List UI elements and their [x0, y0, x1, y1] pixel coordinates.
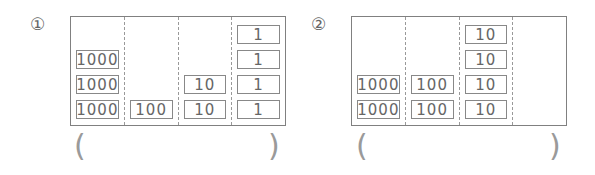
column-hundreds: 100: [124, 17, 178, 125]
number-card: 1: [237, 100, 280, 119]
number-card: 10: [465, 25, 508, 44]
place-value-board: 1000100010010010101010: [351, 16, 567, 126]
number-card: 1000: [76, 100, 119, 119]
number-card: 1: [237, 25, 280, 44]
number-card: 10: [465, 75, 508, 94]
number-card: 100: [411, 100, 454, 119]
column-tens: 1010: [178, 17, 232, 125]
number-card: 10: [465, 50, 508, 69]
number-card: 100: [130, 100, 173, 119]
answer-close-paren: ): [268, 128, 280, 163]
column-thousands: 100010001000: [71, 17, 124, 125]
column-ones: 1111: [231, 17, 285, 125]
answer-blank[interactable]: [100, 135, 260, 165]
number-card: 1000: [357, 75, 400, 94]
place-value-board: 10001000100010010101111: [70, 16, 286, 126]
number-card: 1000: [357, 100, 400, 119]
answer-close-paren: ): [549, 128, 561, 163]
answer-open-paren: (: [356, 128, 368, 163]
problem-number: ①: [30, 14, 45, 34]
number-card: 1: [237, 75, 280, 94]
answer-blank[interactable]: [382, 135, 542, 165]
number-card: 10: [465, 100, 508, 119]
number-card: 1: [237, 50, 280, 69]
answer-open-paren: (: [74, 128, 86, 163]
column-tens: 10101010: [459, 17, 513, 125]
column-ones: [512, 17, 566, 125]
column-thousands: 10001000: [352, 17, 405, 125]
number-card: 10: [184, 75, 227, 94]
number-card: 10: [184, 100, 227, 119]
number-card: 1000: [76, 50, 119, 69]
number-card: 1000: [76, 75, 119, 94]
problem-number: ②: [311, 14, 326, 34]
number-card: 100: [411, 75, 454, 94]
column-hundreds: 100100: [405, 17, 459, 125]
